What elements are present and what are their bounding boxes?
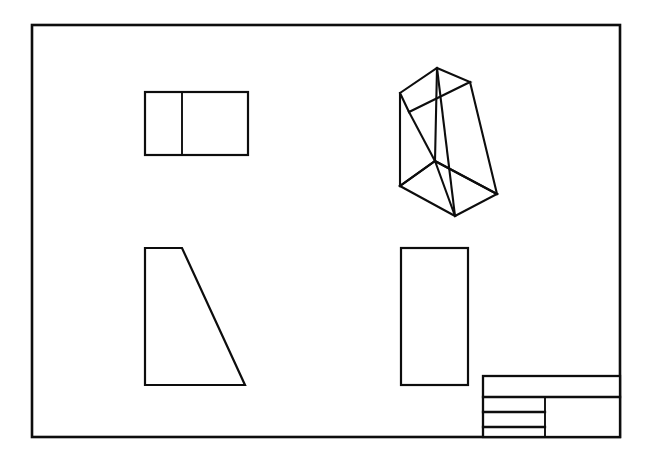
view-side [401, 248, 468, 385]
side-view-outline [401, 248, 468, 385]
view-isometric [400, 68, 497, 216]
iso-right-sloped-edge [470, 82, 497, 194]
iso-top-face [400, 68, 470, 112]
title-block[interactable] [483, 376, 620, 437]
technical-drawing-canvas [0, 0, 648, 456]
top-view-outline [145, 92, 248, 155]
iso-inner-edge [409, 112, 435, 161]
drawing-sheet: Orthographic Projection Sheet Top View F… [0, 0, 648, 456]
view-front [145, 248, 245, 385]
view-top [145, 92, 248, 155]
front-view-outline [145, 248, 245, 385]
